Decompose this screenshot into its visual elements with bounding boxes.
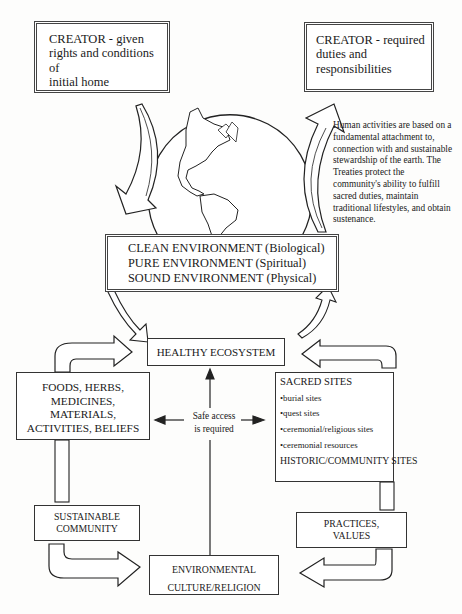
values-line: VALUES (297, 530, 406, 542)
healthy-ecosystem-box: HEALTHY ECOSYSTEM (147, 338, 285, 366)
site-item-ceremonial-resources: •ceremonial resources (280, 441, 417, 450)
annotation-line: sustenance. (333, 214, 452, 226)
site-item-burial: •burial sites (280, 394, 417, 403)
env-sound-line: SOUND ENVIRONMENT (Physical) (128, 271, 325, 286)
resources-line-2: MEDICINES, MATERIALS, (17, 395, 149, 422)
safe-access-arrows (155, 369, 264, 572)
annotation-line: stewardship of the earth. The (333, 155, 452, 167)
environment-box: CLEAN ENVIRONMENT (Biological) PURE ENVI… (105, 234, 339, 292)
safe-access-label: Safe access is required (186, 410, 242, 435)
community-line: COMMUNITY (35, 523, 139, 535)
connector-bar-right (380, 482, 394, 510)
sacred-sites-heading: SACRED SITES (280, 377, 417, 388)
environmental-culture-box: ENVIRONMENTAL CULTURE/RELIGION (149, 555, 279, 595)
sustainable-community-box: SUSTAINABLE COMMUNITY (34, 505, 140, 541)
annotation-line: fundamental attachment to, (333, 132, 452, 144)
arrow-resources-to-ecosystem-icon (55, 336, 132, 372)
annotation-line: sacred duties, maintain (333, 191, 452, 203)
creator-left-line-2: rights and conditions of (49, 46, 167, 75)
creator-required-box: CREATOR - required duties and responsibi… (304, 22, 434, 92)
historic-community-sites: HISTORIC/COMMUNITY SITES (280, 456, 417, 466)
globe-icon (148, 108, 312, 238)
sustainable-line: SUSTAINABLE (35, 511, 139, 523)
safe-access-line-2: is required (186, 423, 242, 436)
creator-left-line-3: initial home (49, 75, 167, 89)
creator-right-line-2: duties and (316, 47, 425, 61)
practices-line: PRACTICES, (297, 518, 406, 530)
culture-religion-line: CULTURE/RELIGION (150, 579, 278, 597)
creator-right-line-3: responsibilities (316, 62, 425, 76)
annotation-line: community's ability to fulfill (333, 179, 452, 191)
creator-given-box: CREATOR - given rights and conditions of… (34, 21, 170, 93)
env-clean-line: CLEAN ENVIRONMENT (Biological) (128, 241, 325, 256)
resources-line-3: ACTIVITIES, BELIEFS (17, 422, 149, 436)
sacred-sites-box: SACRED SITES •burial sites •quest sites … (275, 372, 394, 482)
treaties-annotation: Human activities are based on a fundamen… (333, 120, 452, 226)
env-pure-line: PURE ENVIRONMENT (Spiritual) (128, 256, 325, 271)
annotation-line: Treaties protect the (333, 167, 452, 179)
annotation-line: Human activities are based on a (333, 120, 452, 132)
practices-values-box: PRACTICES, VALUES (296, 512, 407, 548)
arrow-practices-to-culture-icon (300, 549, 392, 587)
healthy-ecosystem-label: HEALTHY ECOSYSTEM (148, 346, 284, 359)
arrow-community-to-culture-icon (49, 544, 140, 586)
site-item-ceremonial-religious: •ceremonial/religious sites (280, 425, 417, 434)
site-item-quest: •quest sites (280, 409, 417, 418)
connector-bar-left (55, 440, 69, 502)
creator-left-line-1: CREATOR - given (49, 32, 167, 46)
creator-right-line-1: CREATOR - required (316, 33, 425, 47)
arrow-env-to-ecosystem-icon (108, 290, 148, 342)
resources-line-1: FOODS, HERBS, (17, 381, 149, 395)
annotation-line: traditional lifestyles, and obtain (333, 203, 452, 215)
arrow-sites-to-ecosystem-icon (302, 340, 396, 368)
safe-access-line-1: Safe access (186, 410, 242, 423)
resources-box: FOODS, HERBS, MEDICINES, MATERIALS, ACTI… (16, 372, 150, 440)
annotation-line: connection with and sustainable (333, 144, 452, 156)
arrow-ecosystem-to-env-icon (298, 286, 336, 338)
environmental-line: ENVIRONMENTAL (150, 561, 278, 579)
